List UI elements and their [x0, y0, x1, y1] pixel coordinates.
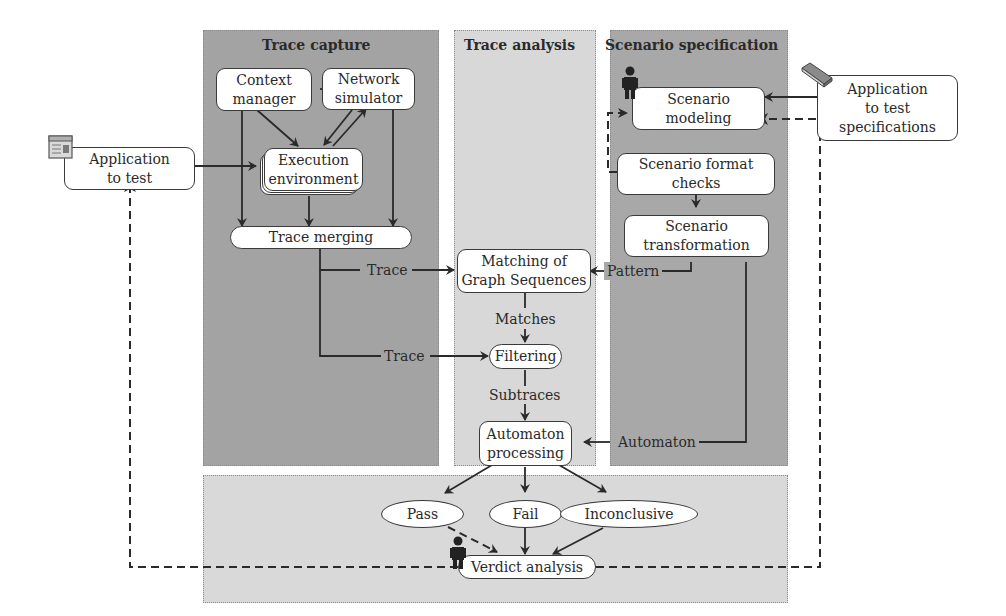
- node-execution-environment: Execution environment: [264, 148, 363, 191]
- edge-label-matches: Matches: [492, 310, 559, 328]
- node-scenario-format-checks: Scenario format checks: [617, 153, 775, 195]
- node-fail: Fail: [489, 500, 562, 528]
- node-verdict-analysis: Verdict analysis: [458, 555, 596, 579]
- edge-label-subtraces: Subtraces: [486, 386, 564, 404]
- window-document-icon: [48, 134, 74, 160]
- node-application-to-test: Application to test: [64, 147, 195, 190]
- node-trace-merging: Trace merging: [230, 226, 412, 249]
- node-app-to-test-specifications: Application to test specifications: [817, 75, 958, 141]
- node-scenario-transformation: Scenario transformation: [624, 215, 769, 257]
- node-filtering: Filtering: [489, 344, 562, 369]
- book-icon: [800, 62, 834, 88]
- person-icon-analyst: [450, 536, 466, 570]
- person-icon-modeler: [622, 66, 638, 100]
- node-pass: Pass: [381, 500, 464, 528]
- edge-label-pattern: Pattern: [604, 262, 662, 280]
- node-network-simulator: Network simulator: [322, 68, 415, 110]
- edge-label-trace-1: Trace: [364, 261, 411, 279]
- node-matching-graph-sequences: Matching of Graph Sequences: [457, 249, 591, 293]
- node-scenario-modeling: Scenario modeling: [632, 87, 765, 130]
- edge-label-trace-2: Trace: [381, 347, 428, 365]
- node-context-manager: Context manager: [216, 68, 312, 111]
- edge-label-automaton: Automaton: [615, 433, 699, 451]
- node-automaton-processing: Automaton processing: [479, 421, 572, 466]
- node-inconclusive: Inconclusive: [560, 500, 698, 528]
